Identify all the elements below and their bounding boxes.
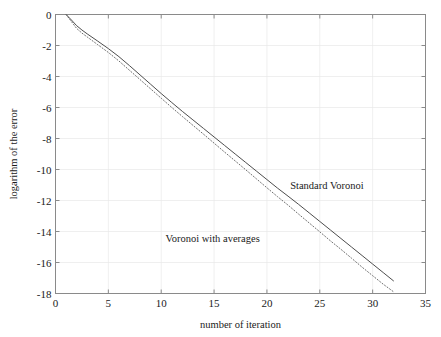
x-tick-label: 25 <box>314 297 326 309</box>
grid-lines <box>56 15 426 294</box>
x-tick-label: 35 <box>420 297 432 309</box>
x-tick-labels: 05101520253035 <box>53 297 432 309</box>
y-tick-label: -16 <box>37 257 52 269</box>
tick-marks <box>56 15 426 294</box>
plot-frame <box>56 15 426 294</box>
series-label: Standard Voronoi <box>290 180 363 191</box>
x-tick-label: 20 <box>261 297 273 309</box>
y-tick-label: -2 <box>42 40 51 52</box>
x-tick-label: 10 <box>156 297 168 309</box>
y-tick-label: -4 <box>42 71 52 83</box>
line-chart: 05101520253035 0-2-4-6-8-10-12-14-16-18 … <box>0 0 441 337</box>
y-tick-label: -8 <box>42 133 52 145</box>
y-tick-label: -14 <box>37 226 52 238</box>
y-axis-title: logarithm of the error <box>8 108 19 199</box>
x-tick-label: 15 <box>209 297 221 309</box>
y-tick-labels: 0-2-4-6-8-10-12-14-16-18 <box>37 9 52 300</box>
y-tick-label: -18 <box>37 288 52 300</box>
x-tick-label: 0 <box>53 297 59 309</box>
series-label: Voronoi with averages <box>165 233 259 244</box>
y-tick-label: -12 <box>37 195 52 207</box>
y-tick-label: -10 <box>37 164 52 176</box>
x-axis-title: number of iteration <box>200 319 282 330</box>
y-tick-label: 0 <box>46 9 52 21</box>
series-voronoi-with-averages <box>66 15 394 292</box>
series-annotations: Standard VoronoiVoronoi with averages <box>165 180 363 244</box>
x-tick-label: 5 <box>106 297 112 309</box>
y-tick-label: -6 <box>42 102 52 114</box>
chart-figure: 05101520253035 0-2-4-6-8-10-12-14-16-18 … <box>0 0 441 337</box>
x-tick-label: 30 <box>367 297 379 309</box>
